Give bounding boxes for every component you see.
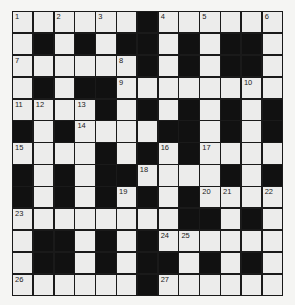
answer-square[interactable] xyxy=(96,209,115,229)
answer-square[interactable] xyxy=(242,121,261,141)
answer-square[interactable] xyxy=(117,231,136,251)
answer-square[interactable] xyxy=(179,12,198,32)
answer-square[interactable] xyxy=(117,209,136,229)
answer-square[interactable] xyxy=(13,231,32,251)
answer-square[interactable] xyxy=(179,275,198,295)
answer-square[interactable] xyxy=(96,56,115,76)
answer-square[interactable] xyxy=(13,78,32,98)
answer-square[interactable]: 13 xyxy=(75,100,94,120)
answer-square[interactable] xyxy=(263,78,282,98)
answer-square[interactable]: 1 xyxy=(13,12,32,32)
answer-square[interactable] xyxy=(34,12,53,32)
answer-square[interactable] xyxy=(13,34,32,54)
answer-square[interactable] xyxy=(200,34,219,54)
answer-square[interactable]: 24 xyxy=(159,231,178,251)
answer-square[interactable] xyxy=(138,121,157,141)
answer-square[interactable] xyxy=(263,253,282,273)
answer-square[interactable] xyxy=(159,209,178,229)
answer-square[interactable] xyxy=(13,253,32,273)
answer-square[interactable] xyxy=(55,34,74,54)
answer-square[interactable] xyxy=(117,100,136,120)
answer-square[interactable]: 22 xyxy=(263,187,282,207)
answer-square[interactable] xyxy=(221,12,240,32)
answer-square[interactable] xyxy=(55,100,74,120)
answer-square[interactable]: 7 xyxy=(13,56,32,76)
answer-square[interactable] xyxy=(75,12,94,32)
answer-square[interactable] xyxy=(34,275,53,295)
answer-square[interactable] xyxy=(221,78,240,98)
answer-square[interactable] xyxy=(96,121,115,141)
answer-square[interactable] xyxy=(221,143,240,163)
answer-square[interactable] xyxy=(263,275,282,295)
answer-square[interactable]: 4 xyxy=(159,12,178,32)
answer-square[interactable] xyxy=(200,231,219,251)
answer-square[interactable] xyxy=(242,165,261,185)
answer-square[interactable] xyxy=(138,78,157,98)
answer-square[interactable] xyxy=(200,121,219,141)
answer-square[interactable] xyxy=(200,275,219,295)
answer-square[interactable] xyxy=(34,121,53,141)
answer-square[interactable]: 12 xyxy=(34,100,53,120)
answer-square[interactable] xyxy=(75,231,94,251)
answer-square[interactable] xyxy=(34,209,53,229)
answer-square[interactable] xyxy=(75,165,94,185)
answer-square[interactable] xyxy=(34,187,53,207)
answer-square[interactable] xyxy=(117,121,136,141)
answer-square[interactable] xyxy=(75,275,94,295)
answer-square[interactable] xyxy=(96,275,115,295)
answer-square[interactable]: 25 xyxy=(179,231,198,251)
answer-square[interactable] xyxy=(263,209,282,229)
answer-square[interactable] xyxy=(159,187,178,207)
answer-square[interactable]: 14 xyxy=(75,121,94,141)
answer-square[interactable] xyxy=(55,275,74,295)
answer-square[interactable] xyxy=(242,187,261,207)
answer-square[interactable] xyxy=(179,78,198,98)
answer-square[interactable] xyxy=(179,165,198,185)
answer-square[interactable] xyxy=(159,100,178,120)
answer-square[interactable]: 5 xyxy=(200,12,219,32)
answer-square[interactable] xyxy=(96,34,115,54)
answer-square[interactable]: 19 xyxy=(117,187,136,207)
answer-square[interactable] xyxy=(221,275,240,295)
answer-square[interactable] xyxy=(159,34,178,54)
answer-square[interactable] xyxy=(75,56,94,76)
answer-square[interactable] xyxy=(263,56,282,76)
answer-square[interactable]: 27 xyxy=(159,275,178,295)
answer-square[interactable]: 6 xyxy=(263,12,282,32)
answer-square[interactable] xyxy=(263,231,282,251)
answer-square[interactable] xyxy=(75,209,94,229)
answer-square[interactable] xyxy=(159,56,178,76)
answer-square[interactable]: 26 xyxy=(13,275,32,295)
answer-square[interactable] xyxy=(159,165,178,185)
answer-square[interactable] xyxy=(138,209,157,229)
answer-square[interactable]: 15 xyxy=(13,143,32,163)
answer-square[interactable]: 20 xyxy=(200,187,219,207)
answer-square[interactable] xyxy=(117,143,136,163)
answer-square[interactable] xyxy=(221,253,240,273)
answer-square[interactable]: 2 xyxy=(55,12,74,32)
answer-square[interactable]: 10 xyxy=(242,78,261,98)
answer-square[interactable]: 17 xyxy=(200,143,219,163)
answer-square[interactable]: 11 xyxy=(13,100,32,120)
answer-square[interactable] xyxy=(55,78,74,98)
answer-square[interactable] xyxy=(34,56,53,76)
answer-square[interactable] xyxy=(117,275,136,295)
answer-square[interactable] xyxy=(75,143,94,163)
answer-square[interactable] xyxy=(242,231,261,251)
answer-square[interactable]: 9 xyxy=(117,78,136,98)
answer-square[interactable] xyxy=(242,100,261,120)
answer-square[interactable] xyxy=(159,78,178,98)
answer-square[interactable] xyxy=(200,165,219,185)
answer-square[interactable]: 23 xyxy=(13,209,32,229)
answer-square[interactable] xyxy=(200,56,219,76)
answer-square[interactable] xyxy=(117,253,136,273)
answer-square[interactable] xyxy=(34,165,53,185)
answer-square[interactable]: 21 xyxy=(221,187,240,207)
answer-square[interactable] xyxy=(242,12,261,32)
answer-square[interactable] xyxy=(221,231,240,251)
answer-square[interactable] xyxy=(75,253,94,273)
answer-square[interactable]: 3 xyxy=(96,12,115,32)
answer-square[interactable] xyxy=(221,209,240,229)
answer-square[interactable]: 8 xyxy=(117,56,136,76)
answer-square[interactable]: 18 xyxy=(138,165,157,185)
